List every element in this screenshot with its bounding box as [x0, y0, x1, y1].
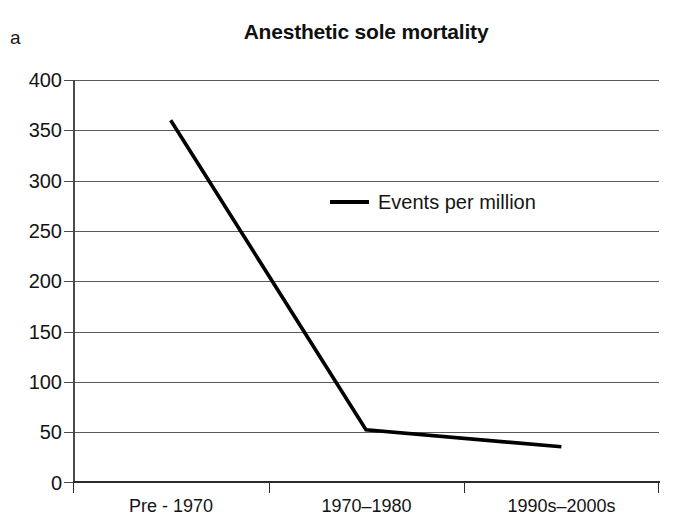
- plot-area: [73, 80, 659, 482]
- figure-panel-a: a Anesthetic sole mortality 400 350 300 …: [0, 0, 680, 532]
- x-tick-label-pre-1970: Pre - 1970: [73, 497, 269, 515]
- chart-title: Anesthetic sole mortality: [73, 20, 659, 44]
- y-tick-label-100: 100: [6, 372, 62, 392]
- y-axis-line: [73, 80, 75, 483]
- x-tick-mark-1: [269, 482, 270, 493]
- x-tick-mark-left: [73, 482, 74, 493]
- y-axis-tick-labels: 400 350 300 250 200 150 100 50 0: [0, 0, 62, 532]
- y-tick-label-250: 250: [6, 221, 62, 241]
- legend-label-events-per-million: Events per million: [378, 192, 536, 212]
- x-tick-mark-right: [658, 482, 659, 493]
- x-tick-label-1990s-2000s: 1990s–2000s: [464, 497, 659, 515]
- x-axis-line: [73, 481, 660, 483]
- x-tick-mark-2: [464, 482, 465, 493]
- x-tick-label-1970-1980: 1970–1980: [269, 497, 464, 515]
- y-tick-label-400: 400: [6, 70, 62, 90]
- y-tick-label-50: 50: [6, 422, 62, 442]
- y-tick-label-0: 0: [6, 473, 62, 493]
- y-tick-label-350: 350: [6, 120, 62, 140]
- series-polyline: [171, 120, 562, 447]
- y-tick-label-300: 300: [6, 171, 62, 191]
- chart-legend: Events per million: [330, 192, 536, 212]
- legend-line-swatch-icon: [330, 200, 369, 204]
- series-line-events-per-million: [73, 80, 659, 482]
- y-tick-label-200: 200: [6, 271, 62, 291]
- y-tick-label-150: 150: [6, 322, 62, 342]
